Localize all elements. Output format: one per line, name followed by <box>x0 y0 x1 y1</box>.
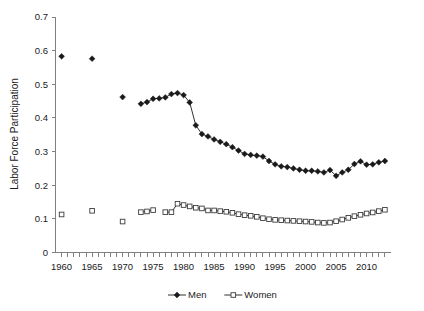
data-point-women <box>218 209 223 214</box>
data-point-women <box>59 212 64 217</box>
data-point-women <box>206 208 211 213</box>
data-point-women <box>364 211 369 216</box>
data-point-women <box>175 201 180 206</box>
y-tick-label: 0.3 <box>35 146 48 157</box>
data-point-women <box>267 217 272 222</box>
data-point-women <box>151 208 156 213</box>
x-tick-label: 1975 <box>143 261 164 272</box>
data-point-women <box>224 209 229 214</box>
data-point-women <box>322 221 327 226</box>
data-point-women <box>194 205 199 210</box>
chart-container: Labor Force Participation 00.10.20.30.40… <box>0 0 424 311</box>
x-tick-label: 2000 <box>295 261 316 272</box>
data-point-women <box>212 208 217 213</box>
data-point-women <box>248 214 253 219</box>
data-point-women <box>145 209 150 214</box>
data-point-women <box>242 213 247 218</box>
data-point-women <box>334 219 339 224</box>
data-point-women <box>303 219 308 224</box>
data-point-women <box>297 219 302 224</box>
data-point-women <box>230 211 235 216</box>
x-tick-label: 1960 <box>51 261 72 272</box>
data-point-women <box>370 210 375 215</box>
data-point-women <box>273 218 278 223</box>
y-tick-label: 0.1 <box>35 213 48 224</box>
data-point-women <box>352 214 357 219</box>
legend-label-women: Women <box>244 289 277 300</box>
data-point-women <box>291 219 296 224</box>
data-point-women <box>90 208 95 213</box>
x-tick-label: 1980 <box>173 261 194 272</box>
data-point-women <box>231 293 236 298</box>
x-tick-label: 1965 <box>82 261 103 272</box>
data-point-women <box>383 207 388 212</box>
data-point-women <box>316 220 321 225</box>
x-tick-label: 2005 <box>326 261 347 272</box>
data-point-women <box>346 216 351 221</box>
x-tick-label: 1970 <box>112 261 133 272</box>
data-point-women <box>377 209 382 214</box>
labor-force-participation-chart: Labor Force Participation 00.10.20.30.40… <box>0 0 424 311</box>
data-point-women <box>187 204 192 209</box>
y-tick-label: 0.7 <box>35 11 48 22</box>
data-point-women <box>139 210 144 215</box>
data-point-women <box>261 216 266 221</box>
legend-label-men: Men <box>188 289 206 300</box>
x-axis-tick-labels: 1960196519701975198019851990199520002005… <box>51 261 377 272</box>
x-tick-label: 2010 <box>356 261 377 272</box>
x-tick-label: 1995 <box>265 261 286 272</box>
data-point-women <box>309 220 314 225</box>
data-point-women <box>200 206 205 211</box>
data-point-women <box>285 218 290 223</box>
y-tick-label: 0.6 <box>35 45 48 56</box>
x-tick-label: 1985 <box>204 261 225 272</box>
data-point-women <box>255 215 260 220</box>
data-point-women <box>328 220 333 225</box>
data-point-women <box>358 213 363 218</box>
y-axis-title: Labor Force Participation <box>9 78 20 190</box>
data-point-women <box>163 210 168 215</box>
y-tick-label: 0 <box>43 247 48 258</box>
x-tick-label: 1990 <box>234 261 255 272</box>
data-point-women <box>120 219 125 224</box>
y-tick-label: 0.4 <box>35 112 48 123</box>
y-tick-label: 0.2 <box>35 180 48 191</box>
data-point-women <box>340 217 345 222</box>
data-point-women <box>181 203 186 208</box>
data-point-women <box>279 218 284 223</box>
data-point-women <box>236 212 241 217</box>
y-tick-label: 0.5 <box>35 79 48 90</box>
data-point-women <box>169 210 174 215</box>
